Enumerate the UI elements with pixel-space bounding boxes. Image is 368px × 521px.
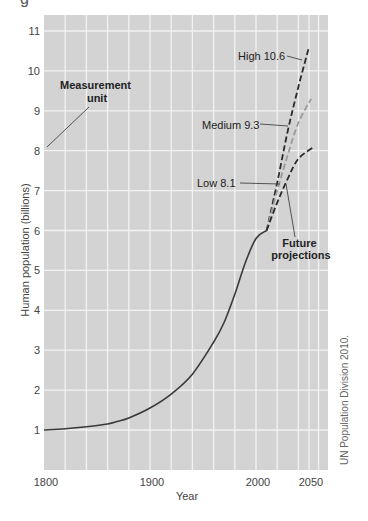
y-tick-label: 7 — [34, 185, 40, 197]
x-tick-label: 2050 — [299, 476, 323, 488]
x-axis-label: Year — [176, 490, 199, 502]
y-axis-label: Human population (billions) — [19, 183, 31, 316]
y-tick-label: 4 — [34, 304, 40, 316]
y-tick-label: 8 — [34, 145, 40, 157]
cropped-title-fragment: g — [20, 0, 29, 7]
y-tick-label: 6 — [34, 225, 40, 237]
y-tick-label: 1 — [34, 424, 40, 436]
y-tick-label: 10 — [28, 65, 40, 77]
source-credit: UN Population Division 2010. — [339, 335, 350, 465]
high-label: High 10.6 — [238, 50, 285, 62]
low-label: Low 8.1 — [197, 177, 236, 189]
population-chart: g 1234567891011 1800190020002050 Human p… — [0, 0, 368, 521]
x-tick-label: 1800 — [34, 476, 58, 488]
x-tick-label: 1900 — [140, 476, 164, 488]
y-tick-label: 11 — [29, 25, 40, 37]
medium-label: Medium 9.3 — [202, 119, 259, 131]
y-tick-label: 9 — [34, 105, 40, 117]
y-tick-label: 2 — [34, 384, 40, 396]
x-tick-label: 2000 — [246, 476, 270, 488]
y-tick-label: 5 — [34, 264, 40, 276]
y-tick-label: 3 — [34, 344, 40, 356]
x-axis-ticks: 1800190020002050 — [34, 476, 323, 488]
